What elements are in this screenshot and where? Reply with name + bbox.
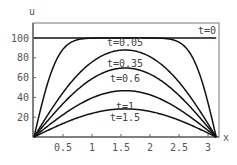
curve-label: t=1.5 <box>110 112 140 123</box>
y-tick-label: 20 <box>17 112 29 123</box>
y-tick-label: 60 <box>17 72 29 83</box>
x-tick-label: 2.5 <box>170 142 188 153</box>
y-tick-label: 100 <box>11 33 29 44</box>
curve-label: t=1 <box>116 101 134 112</box>
curve-label: t=0 <box>198 25 216 36</box>
x-axis-label: x <box>223 132 229 143</box>
y-tick-label: 80 <box>17 52 29 63</box>
curve-label: t=0.35 <box>107 58 143 69</box>
heat-equation-chart: u x 0.511.522.5320406080100 t=0t=0.05t=0… <box>0 0 237 165</box>
x-tick-label: 1 <box>89 142 95 153</box>
x-tick-label: 0.5 <box>54 142 72 153</box>
x-tick-label: 1.5 <box>112 142 130 153</box>
x-tick-label: 3 <box>205 142 211 153</box>
y-tick-label: 40 <box>17 92 29 103</box>
curve-label: t=0.05 <box>107 37 143 48</box>
curve-label: t=0.6 <box>110 73 140 84</box>
x-tick-label: 2 <box>147 142 153 153</box>
y-axis-label: u <box>29 6 35 17</box>
